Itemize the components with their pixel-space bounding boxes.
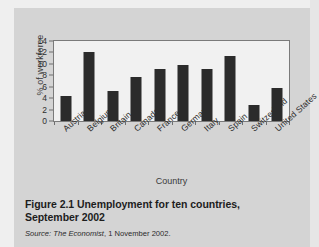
- figure-source-line: Source: The Economist, 1 November 2002.: [25, 229, 295, 239]
- source-label: Source:: [25, 229, 51, 238]
- page-margin-right: [310, 0, 319, 247]
- y-tick-label: 0: [42, 117, 47, 126]
- x-axis-title: Country: [53, 176, 290, 186]
- bar-spain: [225, 56, 236, 121]
- bar-canada: [131, 77, 142, 121]
- y-tick-label: 4: [42, 94, 47, 103]
- bar-chart: % of workforce 02468101214 AustriaBelgiu…: [14, 8, 310, 188]
- x-axis-category-labels: AustriaBelgiumBritainCanadaFranceGermany…: [54, 124, 289, 182]
- figure-caption-title: Figure 2.1 Unemployment for ten countrie…: [25, 198, 295, 224]
- source-date: , 1 November 2002.: [104, 229, 171, 238]
- bar-slot: [125, 41, 149, 121]
- y-tick-label: 12: [38, 48, 47, 57]
- figure-caption: Figure 2.1 Unemployment for ten countrie…: [25, 198, 295, 239]
- y-tick-label: 2: [42, 105, 47, 114]
- source-publication: The Economist: [53, 229, 104, 238]
- y-axis-ticks: 02468101214: [14, 40, 53, 122]
- figure-block: % of workforce 02468101214 AustriaBelgiu…: [0, 0, 319, 247]
- bar-belgium: [84, 52, 95, 121]
- page-margin-top: [0, 0, 319, 8]
- y-tick-label: 10: [38, 60, 47, 69]
- page-margin-left: [0, 0, 14, 247]
- bar-slot: [54, 41, 78, 121]
- bar-slot: [242, 41, 266, 121]
- bar-slot: [219, 41, 243, 121]
- bar-series: [54, 41, 289, 121]
- y-tick-label: 14: [38, 37, 47, 46]
- y-tick-label: 8: [42, 71, 47, 80]
- y-tick-label: 6: [42, 82, 47, 91]
